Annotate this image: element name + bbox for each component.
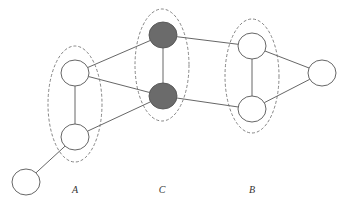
group-b-label: B <box>249 184 255 195</box>
node-r <box>308 60 336 86</box>
edge-a2-c2 <box>88 102 151 131</box>
nodes-layer <box>12 22 336 195</box>
edge-a2-l <box>36 146 65 173</box>
edge-a1-c2 <box>88 77 149 93</box>
edge-a1-c1 <box>88 40 151 67</box>
group-a-label: A <box>71 184 79 195</box>
edge-b2-r <box>264 79 310 102</box>
node-a2 <box>61 124 89 150</box>
group-c-label: C <box>159 184 166 195</box>
node-b1 <box>238 33 266 59</box>
node-b2 <box>238 96 266 122</box>
labels-layer: ACB <box>71 184 255 195</box>
node-c2 <box>149 83 177 109</box>
node-a1 <box>61 60 89 86</box>
edge-b1-r <box>265 51 309 68</box>
node-l <box>12 169 40 195</box>
node-c1 <box>149 22 177 48</box>
graph-diagram: ACB <box>0 0 339 202</box>
